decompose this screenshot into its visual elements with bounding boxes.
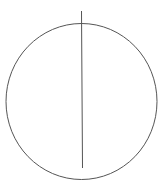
vertical-line — [82, 11, 83, 168]
diagram-svg — [0, 0, 166, 188]
diagram-canvas — [0, 0, 166, 188]
